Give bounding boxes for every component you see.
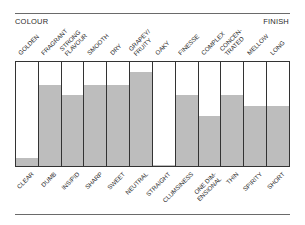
bar-fill xyxy=(267,106,289,166)
bar-fill xyxy=(153,165,175,166)
bottom-label-sharp: SHARP xyxy=(84,171,104,191)
bar-fill xyxy=(84,85,106,166)
bar-column-mellow xyxy=(244,61,267,167)
bottom-label-clear: CLEAR xyxy=(16,171,35,190)
tasting-profile-chart xyxy=(15,61,290,167)
bar-fill xyxy=(176,95,198,166)
bar-column-grapey-fruity xyxy=(130,61,153,167)
bottom-label-spirity: SPIRITY xyxy=(242,171,264,193)
bar-column-concen-trated xyxy=(221,61,244,167)
bottom-label-thin: THIN xyxy=(226,171,241,186)
bar-fill xyxy=(199,116,221,166)
top-label-dry: DRY xyxy=(109,43,123,57)
bar-column-oaky xyxy=(153,61,176,167)
bar-column-long xyxy=(267,61,290,167)
bar-fill xyxy=(62,95,84,166)
bar-column-smooth xyxy=(84,61,107,167)
bottom-label-dumb: DUMB xyxy=(40,171,58,189)
top-descriptor-labels: GOLDENFRAGRANTSTRONGFLAVOURSMOOTHDRYGRAP… xyxy=(15,0,289,60)
bar-fill xyxy=(130,72,152,166)
top-label-oaky: OAKY xyxy=(155,40,172,57)
bar-column-finesse xyxy=(176,61,199,167)
bar-column-strong-flavour xyxy=(62,61,85,167)
bottom-descriptor-labels: CLEARDUMBINSIPIDSHARPSWEETNEUTRALSTRAIGH… xyxy=(15,168,289,213)
bar-fill xyxy=(244,106,266,166)
top-label-long: LONG xyxy=(269,40,286,57)
bar-fill xyxy=(16,158,38,166)
bottom-label-short: SHORT xyxy=(266,171,286,191)
bar-fill xyxy=(221,95,243,166)
bar-fill xyxy=(39,85,61,166)
bar-column-fragrant xyxy=(39,61,62,167)
bar-column-golden xyxy=(16,61,39,167)
bottom-label-sweet: SWEET xyxy=(106,171,126,191)
bar-fill xyxy=(107,85,129,166)
bottom-rule xyxy=(15,214,290,215)
bar-column-complex xyxy=(199,61,222,167)
bar-column-dry xyxy=(107,61,130,167)
bottom-label-insipid: INSIPID xyxy=(60,171,80,191)
